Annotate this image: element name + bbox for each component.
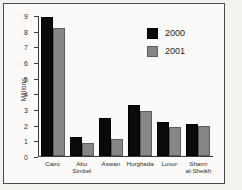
legend-swatch xyxy=(147,28,158,39)
bar xyxy=(169,127,181,156)
legend-item: 2001 xyxy=(147,46,185,57)
chart-frame: Millions 0123456789 CairoAbuSimbelAswanH… xyxy=(3,3,225,184)
bar-group: Cairo xyxy=(41,15,65,156)
legend: 20002001 xyxy=(147,28,185,64)
bar xyxy=(140,111,152,156)
legend-swatch xyxy=(147,46,158,57)
y-tick: 1 xyxy=(34,141,38,142)
y-tick-label: 5 xyxy=(24,75,28,82)
bar xyxy=(41,17,53,156)
y-tick-label: 1 xyxy=(24,138,28,145)
y-tick-label: 4 xyxy=(24,91,28,98)
y-tick: 5 xyxy=(34,79,38,80)
plot-area: Millions 0123456789 CairoAbuSimbelAswanH… xyxy=(38,16,213,157)
bar xyxy=(198,126,210,156)
y-tick-label: 7 xyxy=(24,44,28,51)
y-tick-label: 8 xyxy=(24,28,28,35)
y-tick-label: 3 xyxy=(24,107,28,114)
y-tick: 0 xyxy=(34,157,38,158)
bar xyxy=(53,28,65,156)
bar xyxy=(99,118,111,156)
y-tick: 4 xyxy=(34,94,38,95)
bar-group: Aswan xyxy=(99,15,123,156)
y-tick: 8 xyxy=(34,32,38,33)
y-tick-label: 9 xyxy=(24,13,28,20)
bar-group: AbuSimbel xyxy=(70,15,94,156)
bar xyxy=(70,137,82,156)
bar xyxy=(128,105,140,156)
bar xyxy=(186,124,198,156)
bar-group: Sharmal-Sheikh xyxy=(186,15,210,156)
legend-label: 2000 xyxy=(165,29,185,38)
y-tick: 2 xyxy=(34,126,38,127)
y-tick: 3 xyxy=(34,110,38,111)
bar xyxy=(82,143,94,156)
y-tick: 9 xyxy=(34,16,38,17)
x-axis xyxy=(38,156,213,157)
x-tick-label-line: Simbel xyxy=(51,167,113,174)
x-tick-label: Sharmal-Sheikh xyxy=(167,160,229,174)
legend-label: 2001 xyxy=(165,47,185,56)
bar xyxy=(157,122,169,156)
x-tick-label-line: Sharm xyxy=(167,160,229,167)
y-tick: 6 xyxy=(34,63,38,64)
y-tick-label: 2 xyxy=(24,122,28,129)
legend-item: 2000 xyxy=(147,28,185,39)
y-tick-label: 6 xyxy=(24,60,28,67)
figure-container: Millions 0123456789 CairoAbuSimbelAswanH… xyxy=(0,0,242,190)
y-axis xyxy=(38,16,39,157)
y-tick: 7 xyxy=(34,47,38,48)
bar xyxy=(111,139,123,156)
x-tick-label-line: al-Sheikh xyxy=(167,167,229,174)
